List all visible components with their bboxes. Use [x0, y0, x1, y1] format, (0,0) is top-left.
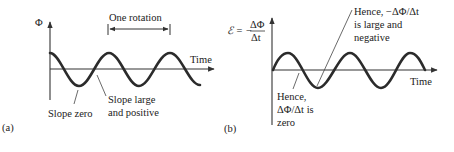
flux-emf-diagram: Φ Time One rotation Slope zero Slope lar… — [0, 0, 454, 152]
zero-label-1: Hence, — [277, 91, 306, 102]
zero-label-3: zero — [277, 117, 295, 128]
large-negative-label-2: is large and — [354, 19, 403, 30]
panel-a-y-axis-label: Φ — [35, 17, 43, 28]
large-negative-label-3: negative — [354, 32, 390, 43]
slope-large-label-2: and positive — [108, 107, 159, 118]
panel-b-fraction-numerator: ΔΦ — [250, 19, 265, 30]
panel-b-tag: (b) — [224, 123, 237, 135]
panel-a: Φ Time One rotation Slope zero Slope lar… — [2, 12, 214, 134]
panel-a-x-axis-label: Time — [190, 54, 212, 65]
panel-b-fraction-denominator: Δt — [251, 32, 261, 43]
slope-large-leader — [97, 75, 106, 96]
panel-b-emf-symbol: ℰ = − — [227, 25, 252, 36]
zero-leader — [293, 73, 299, 89]
zero-label-2: ΔΦ/Δt is — [277, 104, 314, 115]
large-negative-label-1: Hence, −ΔΦ/Δt — [354, 6, 419, 17]
panel-b: ℰ = − ΔΦ Δt Time Hence, −ΔΦ/Δt is large … — [224, 6, 437, 135]
panel-b-x-axis-label: Time — [410, 76, 432, 87]
slope-zero-label: Slope zero — [48, 108, 93, 119]
slope-large-label-1: Slope large — [108, 94, 156, 105]
panel-a-tag: (a) — [2, 122, 14, 134]
one-rotation-label: One rotation — [109, 12, 163, 23]
large-negative-leader — [317, 10, 352, 86]
slope-zero-leader — [74, 90, 78, 104]
